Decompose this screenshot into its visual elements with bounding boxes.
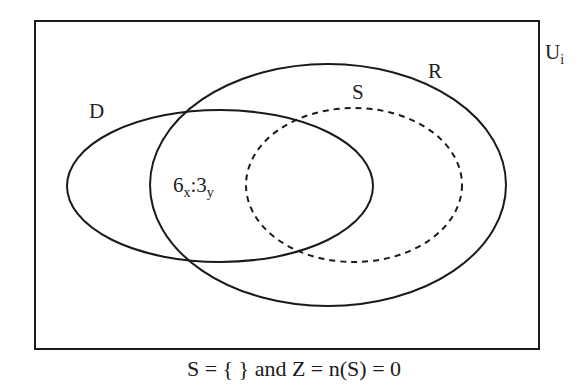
universe-label-main: U — [545, 40, 560, 64]
caption: S = { } and Z = n(S) = 0 — [0, 356, 588, 382]
set-s-dashed-ellipse — [246, 108, 462, 262]
annotation-subscript-y: y — [207, 185, 214, 200]
universe-rectangle — [35, 21, 539, 349]
universe-label: Ui — [545, 42, 564, 63]
universe-label-subscript: i — [560, 52, 564, 67]
annotation-value-x: 6 — [173, 173, 184, 197]
annotation-subscript-x: x — [184, 185, 191, 200]
venn-diagram — [0, 0, 588, 390]
set-d-ellipse — [67, 110, 373, 262]
set-r-label: R — [428, 61, 442, 82]
region-annotation: 6x:3y — [173, 175, 214, 196]
annotation-value-y: 3 — [196, 173, 207, 197]
set-s-label: S — [352, 82, 364, 103]
set-d-label: D — [89, 101, 104, 122]
